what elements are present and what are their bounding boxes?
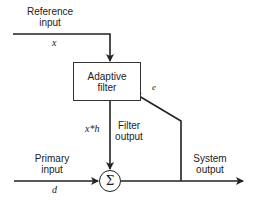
primary-input-label-line2: input xyxy=(30,164,74,175)
filter-output-label-line2: output xyxy=(112,131,146,142)
reference-input-label-line1: Reference xyxy=(20,6,80,17)
system-output-label: System output xyxy=(188,153,232,175)
adaptive-filter-label-line1: Adaptive xyxy=(74,71,140,82)
primary-input-label-line1: Primary xyxy=(30,153,74,164)
primary-var-d: d xyxy=(52,184,57,195)
summing-junction: Σ xyxy=(99,170,121,192)
reference-input-label: Reference input xyxy=(20,6,80,28)
adaptive-filter-block: Adaptive filter xyxy=(73,62,141,101)
system-output-label-line1: System xyxy=(188,153,232,164)
system-output-label-line2: output xyxy=(188,164,232,175)
error-var-e: e xyxy=(152,82,156,92)
adaptive-filter-label-line2: filter xyxy=(74,82,140,93)
primary-input-label: Primary input xyxy=(30,153,74,175)
reference-var-x: x xyxy=(52,37,56,48)
filter-output-label: Filter output xyxy=(112,120,146,142)
filter-output-var: x*h xyxy=(85,123,99,134)
filter-output-label-line1: Filter xyxy=(112,120,146,131)
reference-input-label-line2: input xyxy=(20,17,80,28)
reference-input-line xyxy=(13,34,110,61)
